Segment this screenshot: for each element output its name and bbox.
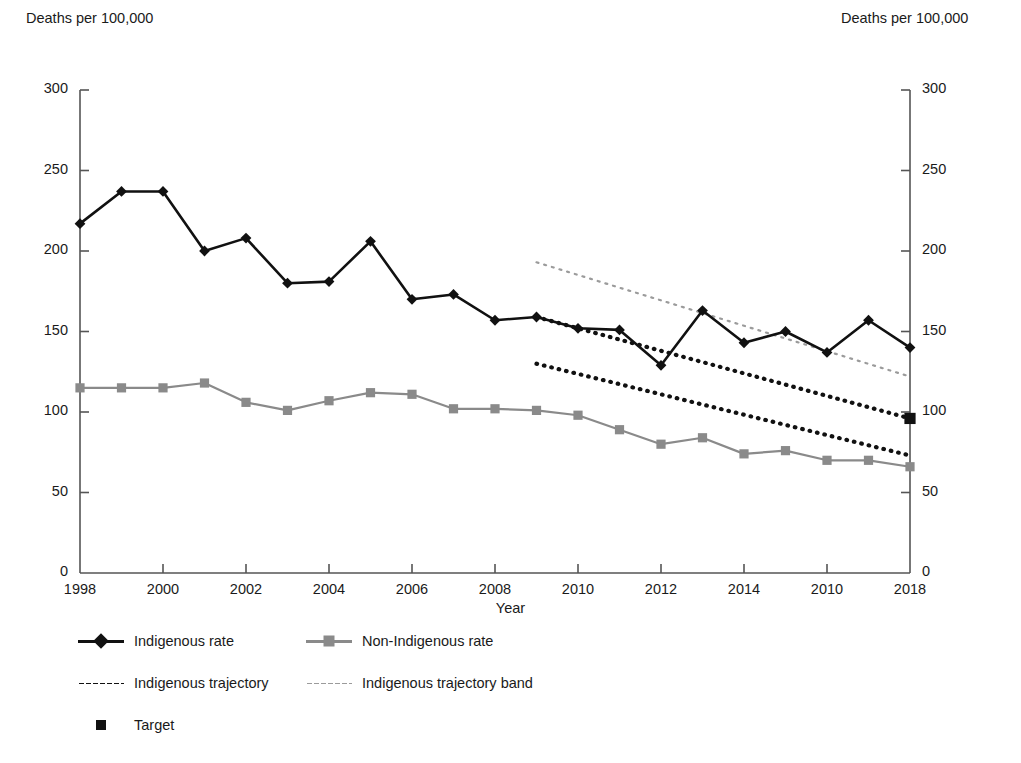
square-icon (96, 720, 106, 730)
x-tick-label: 2006 (382, 581, 442, 597)
dotted-line (78, 682, 124, 685)
x-tick-label: 2008 (465, 581, 525, 597)
legend-item-target[interactable]: Target (78, 712, 174, 738)
y-tick-label-left: 100 (24, 402, 68, 418)
x-tick-label: 2004 (299, 581, 359, 597)
legend-label: Non-Indigenous rate (362, 633, 493, 649)
x-tick-label: 2000 (133, 581, 193, 597)
legend-item-indigenous-trajectory[interactable]: Indigenous trajectory (78, 670, 269, 696)
legend-dotted-light-icon (306, 674, 352, 692)
y-tick-label-left: 300 (24, 80, 68, 96)
x-tick-label: 2014 (714, 581, 774, 597)
x-tick-label: 2002 (216, 581, 276, 597)
legend-label: Indigenous trajectory band (362, 675, 533, 691)
y-tick-label-right: 150 (922, 322, 966, 338)
dotted-line (306, 682, 352, 685)
x-axis-title: Year (0, 600, 1021, 616)
legend-item-indigenous-rate[interactable]: Indigenous rate (78, 628, 234, 654)
legend-dotted-dark-icon (78, 674, 124, 692)
x-tick-label: 2018 (880, 581, 940, 597)
x-tick-label: 2012 (631, 581, 691, 597)
y-tick-label-right: 300 (922, 80, 966, 96)
legend-diamond-line-icon (78, 632, 124, 650)
legend-item-indigenous-trajectory-band[interactable]: Indigenous trajectory band (306, 670, 533, 696)
y-tick-label-right: 100 (922, 402, 966, 418)
legend-target-square-icon (78, 716, 124, 734)
x-tick-label: 1998 (50, 581, 110, 597)
chart-figure: Deaths per 100,000 Deaths per 100,000 05… (0, 0, 1021, 763)
y-tick-label-right: 50 (922, 483, 966, 499)
x-tick-label: 2010 (548, 581, 608, 597)
diamond-icon (93, 633, 109, 649)
legend-label: Indigenous rate (134, 633, 234, 649)
y-tick-label-left: 150 (24, 322, 68, 338)
y-tick-label-left: 0 (24, 563, 68, 579)
square-icon (324, 636, 335, 647)
y-tick-label-left: 200 (24, 241, 68, 257)
x-tick-label: 2010 (797, 581, 857, 597)
legend-item-non-indigenous-rate[interactable]: Non-Indigenous rate (306, 628, 493, 654)
y-tick-label-left: 50 (24, 483, 68, 499)
y-tick-label-left: 250 (24, 161, 68, 177)
chart-legend: Indigenous rateNon-Indigenous rateIndige… (78, 628, 638, 738)
y-tick-label-right: 250 (922, 161, 966, 177)
y-tick-label-right: 0 (922, 563, 966, 579)
legend-label: Target (134, 717, 174, 733)
y-tick-label-right: 200 (922, 241, 966, 257)
legend-square-line-icon (306, 632, 352, 650)
legend-label: Indigenous trajectory (134, 675, 269, 691)
